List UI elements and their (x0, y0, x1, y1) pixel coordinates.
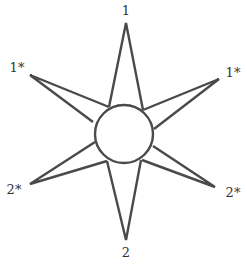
label-lower-left: 2* (7, 183, 22, 196)
spike-upper-left (30, 75, 109, 122)
label-bottom: 2 (122, 246, 130, 259)
spike-upper-right (143, 79, 219, 129)
spike-lower-left (30, 142, 107, 184)
center-circle (95, 105, 153, 163)
star-diagram (0, 0, 247, 266)
label-upper-left: 1* (10, 61, 25, 74)
spike-bottom (107, 160, 141, 240)
label-top: 1 (122, 4, 130, 17)
label-upper-right: 1* (226, 66, 241, 79)
label-lower-right: 2* (226, 186, 241, 199)
spike-top (109, 23, 143, 110)
spike-lower-right (142, 146, 215, 187)
